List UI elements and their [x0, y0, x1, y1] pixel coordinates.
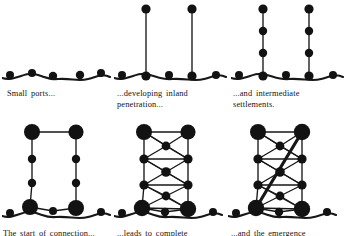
node-major-interior — [180, 124, 195, 139]
node-port — [49, 207, 57, 215]
node-intermediate — [139, 180, 148, 189]
node-port — [275, 208, 283, 216]
node-intermediate — [259, 27, 267, 35]
panel-3-graphic — [231, 2, 345, 86]
panel-stage-5 — [114, 120, 224, 224]
node-intermediate — [162, 142, 171, 151]
node-interior — [187, 4, 196, 13]
node-port — [118, 209, 126, 217]
node-major-port — [180, 201, 196, 217]
node-major-interior — [68, 124, 83, 139]
caption-stage-2: ...developing inland penetration... — [117, 88, 229, 111]
node-port — [49, 72, 57, 80]
panel-stage-1 — [2, 56, 114, 86]
node-port — [323, 208, 331, 216]
node-intermediate — [253, 180, 262, 189]
node-interior — [141, 4, 150, 13]
node-port — [97, 69, 105, 77]
panel-5-graphic — [114, 120, 224, 224]
node-port — [282, 71, 290, 79]
node-major-interior — [24, 124, 40, 140]
panel-4-graphic — [2, 120, 112, 224]
node-intermediate — [259, 49, 267, 57]
node-port — [76, 71, 84, 79]
panel-stage-6 — [228, 120, 338, 224]
node-port-hub — [258, 71, 267, 80]
node-intermediate — [139, 154, 148, 163]
caption-stage-3: ...and intermediate settlements. — [233, 88, 343, 111]
node-intermediate — [275, 167, 285, 177]
node-port-hub — [187, 71, 196, 80]
node-port — [212, 71, 220, 79]
caption-stage-1: Small ports... — [7, 88, 115, 99]
node-intermediate — [28, 155, 36, 163]
node-major-port — [22, 199, 38, 215]
node-port — [118, 71, 126, 79]
node-intermediate — [183, 180, 192, 189]
node-port — [6, 209, 14, 217]
node-intermediate — [72, 155, 80, 163]
node-port-hub — [304, 71, 313, 80]
panel-1-graphic — [2, 56, 114, 86]
node-intermediate — [253, 154, 262, 163]
node-intermediate — [162, 192, 171, 201]
caption-stage-5: ...leads to complete interconnection... — [117, 228, 229, 236]
node-major-port — [68, 200, 84, 216]
node-interior — [304, 4, 313, 13]
node-major-port — [134, 200, 150, 216]
node-intermediate — [28, 179, 36, 187]
node-intermediate — [276, 142, 285, 151]
node-major-interior — [294, 124, 310, 140]
caption-stage-6: ...and the emergence of main street rout… — [231, 228, 345, 236]
node-major-interior — [136, 124, 152, 140]
node-port — [235, 71, 243, 79]
node-intermediate — [305, 49, 313, 57]
caption-stage-4: The start of connection... — [3, 228, 113, 236]
node-major-interior — [250, 124, 266, 140]
node-port — [97, 208, 105, 216]
node-port — [232, 209, 240, 217]
node-intermediate — [297, 180, 306, 189]
node-intermediate — [161, 167, 171, 177]
transport-network-development-figure: Small ports... ...developing inland pene… — [0, 0, 347, 236]
panel-stage-3 — [231, 2, 345, 86]
panel-stage-4 — [2, 120, 112, 224]
node-intermediate — [297, 154, 306, 163]
node-port — [6, 71, 14, 79]
panel-2-graphic — [114, 2, 228, 86]
node-interior — [258, 4, 267, 13]
node-intermediate — [72, 179, 80, 187]
node-intermediate — [183, 154, 192, 163]
node-intermediate — [305, 27, 313, 35]
node-major-port — [248, 200, 264, 216]
panel-stage-2 — [114, 2, 228, 86]
node-port — [209, 208, 217, 216]
panel-6-graphic — [228, 120, 338, 224]
node-intermediate — [276, 192, 285, 201]
node-port-hub — [141, 71, 150, 80]
node-port — [161, 208, 169, 216]
node-major-port — [294, 201, 310, 217]
node-port — [28, 69, 36, 77]
node-port — [165, 71, 173, 79]
node-port — [329, 71, 337, 79]
